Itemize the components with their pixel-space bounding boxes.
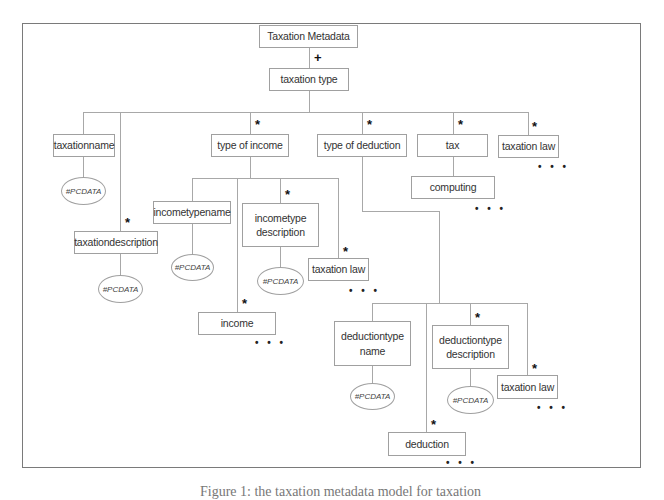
- connector: [250, 112, 251, 134]
- more-ellipsis: • • •: [475, 204, 506, 214]
- connector: [309, 48, 310, 68]
- label-line: deductiontype: [341, 329, 404, 343]
- node-taxation-metadata: Taxation Metadata: [259, 25, 358, 48]
- connector: [362, 211, 439, 212]
- node-income: income: [198, 312, 276, 335]
- connector: [453, 112, 454, 134]
- node-type-of-deduction: type of deduction: [317, 134, 407, 157]
- cardinality-star: *: [255, 118, 260, 131]
- connector: [192, 178, 339, 179]
- connector: [309, 91, 310, 112]
- node-deductiontype-description: deductiontype description: [432, 325, 509, 369]
- node-taxation-law-deduction: taxation law: [497, 375, 558, 399]
- connector: [362, 112, 363, 134]
- connector: [426, 303, 427, 432]
- node-deductiontype-name: deductiontype name: [334, 321, 411, 366]
- connector: [470, 369, 471, 386]
- cardinality-star: *: [367, 118, 372, 131]
- node-deduction: deduction: [388, 432, 466, 456]
- label-line: description: [256, 225, 305, 239]
- pcdata-deductiontype-name: #PCDATA: [350, 383, 395, 410]
- connector: [362, 157, 363, 211]
- connector: [338, 178, 339, 258]
- connector: [372, 303, 373, 321]
- cardinality-star: *: [343, 245, 348, 258]
- node-computing: computing: [411, 176, 495, 199]
- node-taxationdescription: taxationdescription: [74, 231, 158, 254]
- more-ellipsis: • • •: [538, 162, 569, 172]
- node-incometypename: incometypename: [153, 201, 231, 224]
- cardinality-star: *: [475, 311, 480, 324]
- connector: [83, 112, 84, 134]
- connector: [527, 303, 528, 375]
- connector: [439, 211, 440, 303]
- connector: [453, 157, 454, 176]
- node-tax: tax: [417, 134, 488, 157]
- node-taxation-type: taxation type: [269, 68, 349, 91]
- pcdata-taxationname: #PCDATA: [61, 177, 106, 205]
- cardinality-plus: +: [314, 51, 322, 64]
- connector: [372, 366, 373, 383]
- node-taxation-law: taxation law: [498, 135, 559, 158]
- label-line: name: [360, 344, 385, 358]
- figure-caption: Figure 1: the taxation metadata model fo…: [200, 484, 481, 500]
- connector: [528, 112, 529, 135]
- more-ellipsis: • • •: [537, 403, 568, 413]
- connector: [280, 178, 281, 203]
- more-ellipsis: • • •: [446, 458, 477, 468]
- node-incometype-description: incometype description: [242, 203, 319, 247]
- node-taxation-law-income: taxation law: [308, 258, 369, 281]
- connector: [83, 157, 84, 177]
- cardinality-star: *: [285, 188, 290, 201]
- cardinality-star: *: [532, 120, 537, 133]
- connector: [250, 157, 251, 178]
- label-line: incometype: [255, 211, 307, 225]
- label-line: description: [446, 347, 495, 361]
- node-type-of-income: type of income: [211, 134, 289, 157]
- connector: [470, 303, 471, 325]
- pcdata-taxationdescription: #PCDATA: [98, 275, 143, 303]
- connector: [120, 112, 121, 231]
- connector: [237, 178, 238, 312]
- cardinality-star: *: [242, 297, 247, 310]
- cardinality-star: *: [458, 118, 463, 131]
- connector: [83, 112, 529, 113]
- connector: [192, 224, 193, 254]
- cardinality-star: *: [532, 362, 537, 375]
- pcdata-incometypename: #PCDATA: [171, 254, 214, 281]
- cardinality-star: *: [431, 418, 436, 431]
- label-line: deductiontype: [439, 333, 502, 347]
- connector: [280, 247, 281, 267]
- pcdata-deductiontype-description: #PCDATA: [447, 386, 494, 414]
- more-ellipsis: • • •: [255, 338, 286, 348]
- pcdata-incometype-description: #PCDATA: [257, 267, 304, 295]
- cardinality-star: *: [125, 216, 130, 229]
- connector: [192, 178, 193, 201]
- node-taxationname: taxationname: [53, 134, 115, 157]
- more-ellipsis: • • •: [349, 286, 380, 296]
- connector: [372, 303, 528, 304]
- connector: [120, 254, 121, 275]
